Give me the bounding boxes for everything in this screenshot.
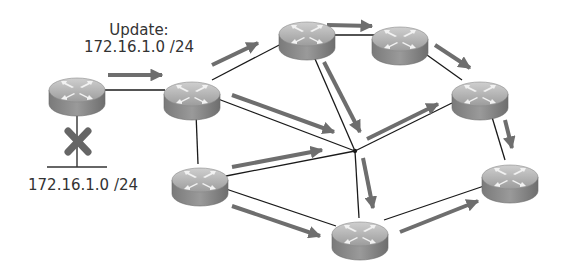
arrow-icon [505,120,512,148]
router-icon-r8[interactable] [172,168,228,206]
router-icon-r4[interactable] [372,27,428,65]
router-icon-r7[interactable] [332,222,388,260]
links-layer [105,35,505,226]
arrow-icon [400,201,478,232]
subnet-label: 172.16.1.0 /24 [28,177,138,194]
link-r2-hub [218,99,355,151]
hub-point [354,150,357,153]
link-r3-hub [312,52,355,151]
arrow-icon [212,43,258,65]
update-label: Update: 172.16.1.0 /24 [79,22,199,56]
link-r5-hub [355,103,452,151]
update-title: Update: [79,22,199,39]
arrow-icon [232,150,322,167]
router-icon-r1[interactable] [49,78,105,116]
arrow-icon [327,25,372,26]
link-r7-hub [355,151,359,218]
router-icon-r2[interactable] [164,82,220,120]
arrow-icon [232,95,334,132]
arrow-icon [367,104,438,139]
arrow-icon [363,158,373,208]
failure-x-icon [68,131,88,152]
link-r2-r8 [196,113,198,164]
routers-layer [49,22,538,260]
link-r5-r6 [492,117,505,160]
router-icon-r6[interactable] [482,165,538,203]
update-prefix: 172.16.1.0 /24 [79,39,199,56]
router-icon-r5[interactable] [452,82,508,120]
router-icon-r3[interactable] [279,22,335,60]
arrow-icon [232,206,320,236]
